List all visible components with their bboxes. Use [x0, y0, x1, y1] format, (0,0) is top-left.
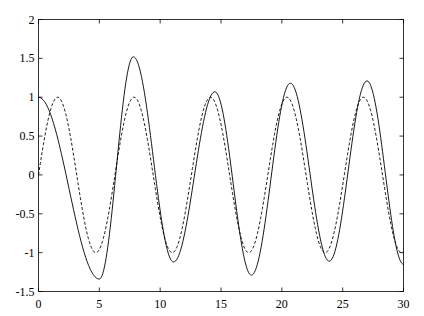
- y-tick-label: -0.5: [16, 207, 35, 221]
- y-tick-label: 0: [29, 168, 35, 182]
- y-tick-label: 2: [29, 13, 35, 27]
- x-tick-label: 30: [398, 297, 410, 311]
- x-tick-label: 10: [154, 297, 166, 311]
- x-tick-label: 25: [337, 297, 349, 311]
- y-tick-label: -1: [25, 246, 35, 260]
- plot-background: [0, 0, 424, 316]
- x-tick-label: 5: [96, 297, 102, 311]
- y-tick-label: 1: [29, 90, 35, 104]
- x-tick-label: 15: [215, 297, 227, 311]
- y-tick-label: 0.5: [20, 129, 35, 143]
- y-tick-label: 1.5: [20, 51, 35, 65]
- x-tick-label: 0: [36, 297, 42, 311]
- x-tick-label: 20: [276, 297, 288, 311]
- y-tick-label: -1.5: [16, 285, 35, 299]
- line-chart: 051015202530 -1.5-1-0.500.511.52: [0, 0, 424, 316]
